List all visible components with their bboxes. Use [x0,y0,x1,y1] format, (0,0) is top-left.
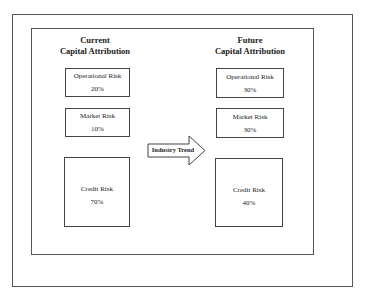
box-value: 40% [216,198,282,208]
future-title-line2: Capital Attribution [205,46,295,57]
box-label: Operational Risk [66,71,129,81]
future-credit-risk-box: Credit Risk 40% [215,158,283,227]
future-market-risk-box: Market Risk 30% [216,108,284,138]
current-title: Current Capital Attribution [50,35,140,57]
box-label: Operational Risk [217,72,283,82]
box-value: 20% [66,84,129,94]
current-operational-risk-box: Operational Risk 20% [65,68,130,97]
box-value: 30% [217,85,283,95]
future-title: Future Capital Attribution [205,35,295,57]
industry-trend-label: Industry Trend [150,145,196,155]
current-title-line2: Capital Attribution [50,46,140,57]
current-market-risk-box: Market Risk 10% [65,108,130,137]
future-title-line1: Future [205,35,295,46]
current-title-line1: Current [50,35,140,46]
box-value: 10% [66,124,129,134]
future-operational-risk-box: Operational Risk 30% [216,68,284,98]
box-label: Market Risk [217,112,283,122]
box-label: Credit Risk [216,185,282,195]
box-value: 70% [65,197,129,207]
box-label: Credit Risk [65,184,129,194]
box-label: Market Risk [66,111,129,121]
box-value: 30% [217,125,283,135]
current-credit-risk-box: Credit Risk 70% [64,157,130,227]
